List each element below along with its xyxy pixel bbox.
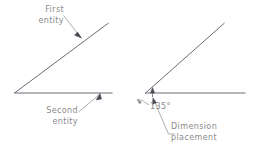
first-entity-label: First entity [24, 4, 64, 26]
angle-dimension [137, 99, 149, 105]
right-first-entity-line [146, 23, 225, 93]
second-entity-label: Second entity [26, 105, 78, 127]
first-entity-leader [64, 16, 82, 39]
first-entity-label-line1: First [24, 4, 64, 15]
first-entity-label-line2: entity [24, 15, 64, 26]
first-entity-leader-arrow-icon [75, 32, 82, 38]
second-entity-leader [79, 94, 102, 113]
dimension-placement-label-line1: Dimension [171, 121, 237, 132]
left-first-entity-line [15, 23, 109, 93]
diagram-canvas: First entity Second entity 135° Dimensio… [0, 0, 255, 154]
angle-value-label: 135° [150, 101, 171, 112]
angle-dimension-extension [146, 104, 149, 105]
second-entity-leader-line [79, 95, 100, 113]
second-entity-label-line2: entity [26, 116, 78, 127]
dimension-placement-label-line2: placement [171, 132, 237, 143]
dimension-placement-label: Dimension placement [171, 121, 237, 143]
second-entity-label-line1: Second [26, 105, 78, 116]
left-panel-geometry [14, 23, 113, 93]
right-panel-geometry [145, 23, 246, 93]
